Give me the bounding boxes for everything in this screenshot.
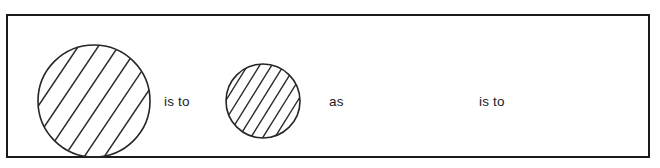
answer-blank-slot xyxy=(538,52,638,148)
relation-label-as: as xyxy=(329,95,344,109)
small-hatched-circle xyxy=(222,60,304,142)
relation-label-is-to-first: is to xyxy=(164,95,190,109)
large-circle-outline xyxy=(38,45,150,157)
large-circle-graphic xyxy=(32,39,156,163)
figure-frame: is to xyxy=(6,14,650,158)
large-hatched-circle xyxy=(32,39,156,163)
relation-label-is-to-second: is to xyxy=(479,95,505,109)
small-circle-graphic xyxy=(222,60,304,142)
small-circle-hatching xyxy=(188,52,340,142)
visual-analogy-figure: is to xyxy=(0,0,660,168)
